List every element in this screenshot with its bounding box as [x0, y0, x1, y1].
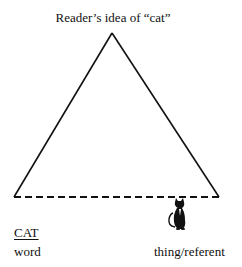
edge-word-to-idea	[14, 33, 112, 197]
referent-caption: thing/referent	[154, 245, 225, 258]
word-symbol: CAT	[14, 226, 39, 239]
word-caption: word	[14, 245, 41, 258]
idea-label: Reader’s idea of “cat”	[0, 11, 226, 24]
edge-idea-to-referent	[112, 33, 219, 197]
black-cat-icon	[169, 198, 185, 230]
